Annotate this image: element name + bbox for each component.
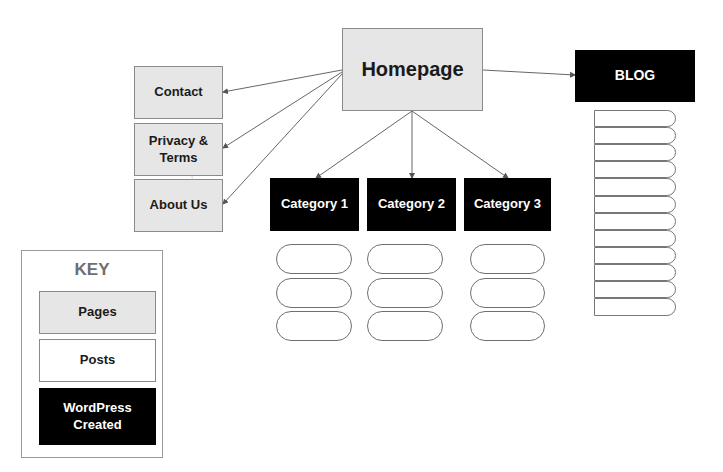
homepage-label: Homepage xyxy=(361,57,463,82)
blog-post-item[interactable] xyxy=(594,247,676,264)
blog-label: BLOG xyxy=(615,67,655,85)
blog-post-item[interactable] xyxy=(594,196,676,213)
category-node-1[interactable]: Category 1 xyxy=(270,178,359,231)
legend-item-posts: Posts xyxy=(39,339,156,382)
legend-item-pages: Pages xyxy=(39,291,156,334)
post-pill[interactable] xyxy=(367,311,443,341)
blog-node[interactable]: BLOG xyxy=(575,50,695,102)
blog-post-item[interactable] xyxy=(594,230,676,247)
blog-post-item[interactable] xyxy=(594,281,676,298)
blog-post-item[interactable] xyxy=(594,127,676,144)
blog-post-item[interactable] xyxy=(594,110,676,127)
page-label: Privacy & Terms xyxy=(143,133,214,166)
blog-post-item[interactable] xyxy=(594,213,676,230)
post-pill[interactable] xyxy=(367,278,443,308)
homepage-node[interactable]: Homepage xyxy=(342,28,483,111)
post-pill[interactable] xyxy=(470,278,545,308)
category-node-2[interactable]: Category 2 xyxy=(367,178,456,231)
post-pill[interactable] xyxy=(276,278,352,308)
category-label: Category 2 xyxy=(378,196,445,212)
legend-title: KEY xyxy=(22,260,162,280)
blog-post-item[interactable] xyxy=(594,264,676,281)
blog-post-item[interactable] xyxy=(594,144,676,161)
blog-post-item[interactable] xyxy=(594,161,676,178)
page-label: About Us xyxy=(150,197,208,213)
post-pill[interactable] xyxy=(367,244,443,274)
post-pill[interactable] xyxy=(470,244,545,274)
post-pill[interactable] xyxy=(276,244,352,274)
legend-label: Pages xyxy=(78,304,116,320)
blog-post-item[interactable] xyxy=(594,178,676,196)
legend-label: WordPress Created xyxy=(51,400,144,433)
legend-item-wordpress-created: WordPress Created xyxy=(39,388,156,445)
legend: KEY Pages Posts WordPress Created xyxy=(21,250,163,458)
page-label: Contact xyxy=(154,84,202,100)
page-node-about-us[interactable]: About Us xyxy=(134,179,223,232)
blog-post-item[interactable] xyxy=(594,298,676,316)
legend-label: Posts xyxy=(80,352,115,368)
category-node-3[interactable]: Category 3 xyxy=(464,178,551,231)
category-label: Category 1 xyxy=(281,196,348,212)
page-node-contact[interactable]: Contact xyxy=(134,66,223,119)
category-label: Category 3 xyxy=(474,196,541,212)
post-pill[interactable] xyxy=(470,311,545,341)
post-pill[interactable] xyxy=(276,311,352,341)
page-node-privacy-terms[interactable]: Privacy & Terms xyxy=(134,123,223,176)
